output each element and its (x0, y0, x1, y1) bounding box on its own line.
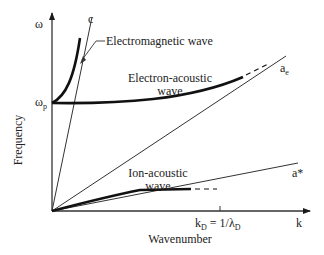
ion-sound-line-label: a* (292, 166, 303, 180)
ion-acoustic-label-line1: Ion-acoustic (128, 166, 187, 180)
y-axis-label: Frequency (11, 115, 25, 166)
electron-acoustic-label-line2: wave (157, 84, 182, 98)
light-line-c (52, 17, 92, 211)
dispersion-diagram: ω ωp Frequency c Electromagnetic wave El… (0, 0, 324, 255)
em-wave-label: Electromagnetic wave (106, 34, 213, 48)
x-axis-symbol: k (296, 216, 302, 230)
electron-thermal-line-label: ae (280, 61, 289, 77)
debye-wavenumber-label: kD = 1/λD (195, 216, 241, 232)
plasma-frequency-label: ωp (35, 95, 47, 111)
kd-mid: = 1/λ (207, 216, 235, 230)
y-axis-symbol: ω (35, 17, 43, 31)
omega-p-symbol: ω (35, 95, 43, 109)
omega-p-subscript: p (43, 102, 47, 111)
ion-acoustic-label-line2: wave (145, 179, 170, 193)
electron-acoustic-label-line1: Electron-acoustic (128, 71, 212, 85)
light-line-label: c (88, 12, 93, 26)
lambda-sub: D (235, 223, 241, 232)
ae-subscript: e (285, 68, 289, 77)
x-axis-label: Wavenumber (148, 232, 212, 246)
